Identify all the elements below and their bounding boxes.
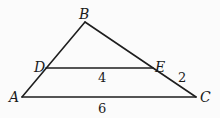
point-label-c: C — [200, 89, 211, 105]
length-ac: 6 — [98, 101, 106, 116]
point-label-b: B — [78, 6, 89, 22]
length-ec: 2 — [178, 70, 186, 85]
point-label-d: D — [33, 59, 45, 75]
segment-bc — [85, 22, 196, 97]
length-de: 4 — [98, 70, 106, 85]
point-label-e: E — [154, 59, 165, 75]
point-label-a: A — [7, 89, 19, 105]
triangle-diagram: B D E A C 4 2 6 — [0, 0, 220, 118]
segment-ab — [22, 22, 85, 97]
